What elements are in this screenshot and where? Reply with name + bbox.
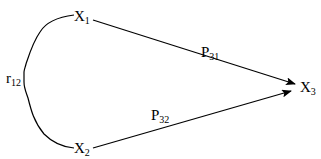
path-diagram-canvas xyxy=(0,0,321,159)
node-x1-sub: 1 xyxy=(85,15,90,26)
node-x1-main: X xyxy=(74,8,85,24)
node-x3: X3 xyxy=(300,80,316,95)
node-x2: X2 xyxy=(74,141,90,156)
node-x2-main: X xyxy=(74,140,85,156)
edge-label-r12-sub: 12 xyxy=(11,77,21,88)
edge-label-p31-sub: 31 xyxy=(209,51,219,62)
path-arrow-p31 xyxy=(93,20,295,84)
node-x3-main: X xyxy=(300,79,311,95)
edge-label-r12: r12 xyxy=(6,71,21,86)
node-x1: X1 xyxy=(74,9,90,24)
edge-label-p32: P32 xyxy=(151,108,169,123)
path-arrow-p32 xyxy=(93,91,291,148)
node-x2-sub: 2 xyxy=(85,147,90,158)
edge-label-p32-sub: 32 xyxy=(159,114,169,125)
edge-label-p31: P31 xyxy=(201,45,219,60)
correlation-curve-r12 xyxy=(24,15,74,148)
node-x3-sub: 3 xyxy=(311,86,316,97)
